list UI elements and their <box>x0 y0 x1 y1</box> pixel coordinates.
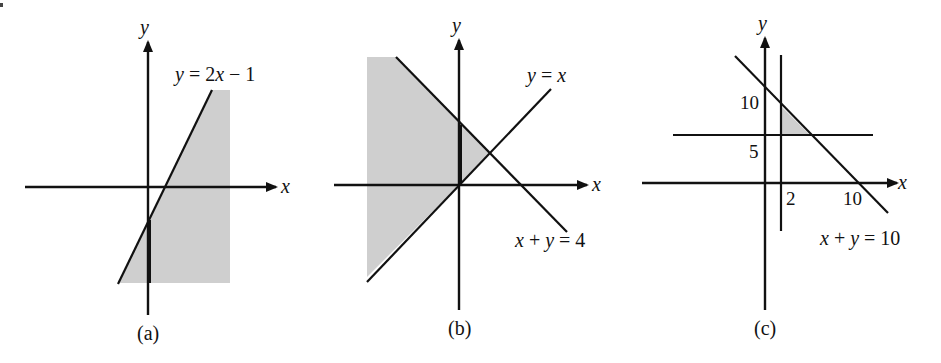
equation-label-x-plus-y-equals-10: x + y = 10 <box>819 227 900 250</box>
tick-label-x-10: 10 <box>843 188 862 209</box>
equation-label-a: y = 2x − 1 <box>173 63 255 86</box>
caption-c: (c) <box>754 317 776 340</box>
scan-speck <box>0 3 3 7</box>
x-axis-label-b: x <box>591 173 601 195</box>
inequality-regions-figure: x y y = 2x − 1 (a) x y y = x x + y = 4 (… <box>0 0 941 363</box>
tick-label-x-2: 2 <box>786 188 796 209</box>
panel-b: x y y = x x + y = 4 (b) <box>334 14 601 340</box>
caption-a: (a) <box>137 322 159 345</box>
caption-b: (b) <box>448 317 471 340</box>
panel-c: x y 10 5 2 10 x + y = 10 (c) <box>642 12 907 340</box>
y-axis-label-b: y <box>450 14 461 37</box>
equation-label-y-equals-x: y = x <box>525 64 566 87</box>
tick-label-y-10: 10 <box>740 92 759 113</box>
tick-label-y-5: 5 <box>749 141 759 162</box>
panel-a: x y y = 2x − 1 (a) <box>25 16 290 345</box>
x-axis-label-c: x <box>897 171 907 193</box>
y-axis-label-c: y <box>756 12 767 35</box>
x-axis-label-a: x <box>280 175 290 197</box>
y-axis-label-a: y <box>138 16 149 39</box>
shaded-region-c <box>781 106 810 135</box>
equation-label-x-plus-y-equals-4: x + y = 4 <box>514 229 585 252</box>
